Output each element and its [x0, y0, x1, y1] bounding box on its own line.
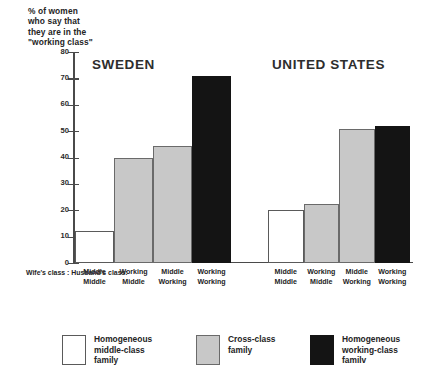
wife-class-value: Middle — [339, 268, 375, 278]
husband-class-value: Working — [375, 278, 411, 288]
y-tick-mark — [68, 131, 79, 132]
legend-label: Homogeneous middle-class family — [94, 334, 152, 366]
y-axis-caption: % of women who say that they are in the … — [28, 6, 140, 48]
y-tick-label: 10 — [61, 231, 69, 240]
bar — [75, 231, 114, 263]
category-label: MiddleMiddle — [75, 268, 114, 287]
category-label: MiddleWorking — [339, 268, 375, 287]
wife-class-value: Working — [304, 268, 340, 278]
wife-class-value: Middle — [268, 268, 304, 278]
bar — [192, 76, 231, 263]
legend-item: Homogeneous middle-class family — [62, 334, 152, 366]
y-tick-label: 40 — [61, 152, 69, 161]
y-tick-label: 30 — [61, 178, 69, 187]
wife-class-value: Working — [192, 268, 231, 278]
y-tick-label: 60 — [61, 99, 69, 108]
category-label: WorkingWorking — [375, 268, 411, 287]
legend-swatch — [196, 335, 220, 365]
category-label: WorkingMiddle — [304, 268, 340, 287]
y-tick-label: 20 — [61, 205, 69, 214]
wife-class-value: Working — [375, 268, 411, 278]
y-tick-mark — [68, 158, 79, 159]
y-tick-mark — [68, 52, 79, 53]
bar — [339, 129, 375, 264]
y-tick-mark — [68, 105, 79, 106]
plot-area: 01020304050607080 — [73, 52, 413, 263]
chart-figure: % of women who say that they are in the … — [0, 0, 422, 376]
y-tick-mark — [68, 78, 79, 79]
category-label: MiddleMiddle — [268, 268, 304, 287]
group-title-sweden: SWEDEN — [92, 57, 155, 72]
husband-class-value: Middle — [268, 278, 304, 288]
wife-class-value: Working — [114, 268, 153, 278]
group-title-united-states: UNITED STATES — [272, 57, 385, 72]
husband-class-value: Middle — [75, 278, 114, 288]
bar — [304, 204, 340, 263]
category-label: WorkingMiddle — [114, 268, 153, 287]
legend-swatch — [310, 335, 334, 365]
legend-item: Cross-class family — [196, 334, 276, 365]
husband-class-value: Middle — [114, 278, 153, 288]
legend-label: Homogeneous working-class familv — [342, 334, 400, 366]
wife-class-value: Middle — [153, 268, 192, 278]
husband-class-value: Working — [153, 278, 192, 288]
legend-label: Cross-class family — [228, 334, 276, 355]
y-tick-mark — [68, 184, 79, 185]
legend-swatch — [62, 335, 86, 365]
category-label: MiddleWorking — [153, 268, 192, 287]
y-tick-label: 50 — [61, 126, 69, 135]
y-tick-mark — [68, 263, 79, 264]
bar — [268, 210, 304, 263]
husband-class-value: Working — [339, 278, 375, 288]
bar — [375, 126, 411, 263]
legend-item: Homogeneous working-class familv — [310, 334, 400, 366]
bar — [153, 146, 192, 263]
y-tick-label: 70 — [61, 73, 69, 82]
y-tick-label: 80 — [61, 47, 69, 56]
category-label: WorkingWorking — [192, 268, 231, 287]
legend: Homogeneous middle-class familyCross-cla… — [0, 334, 422, 376]
husband-class-value: Middle — [304, 278, 340, 288]
y-tick-label: 0 — [65, 258, 69, 267]
husband-class-value: Working — [192, 278, 231, 288]
wife-class-value: Middle — [75, 268, 114, 278]
y-tick-mark — [68, 210, 79, 211]
bar — [114, 158, 153, 264]
